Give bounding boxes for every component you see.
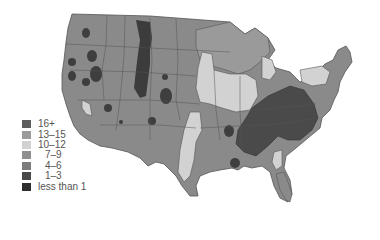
legend-item: 7–9 [22, 150, 86, 160]
legend-label: less than 1 [38, 182, 86, 192]
legend-item: less than 1 [22, 181, 86, 191]
legend-item: 1–3 [22, 171, 86, 181]
legend-swatch [22, 120, 31, 128]
legend-item: 16+ [22, 119, 86, 129]
legend-swatch [22, 141, 31, 149]
legend-swatch [22, 172, 31, 180]
legend-swatch [22, 131, 31, 139]
legend: 16+ 13–15 10–12 7–9 4–6 1–3 less than 1 [22, 119, 86, 192]
legend-label: 7–9 [38, 150, 62, 160]
legend-label: 1–3 [38, 171, 62, 181]
legend-swatch [22, 162, 31, 170]
legend-label: 16+ [38, 119, 55, 129]
legend-swatch [22, 151, 31, 159]
region-10-12-northeast [300, 66, 330, 86]
legend-swatch [22, 183, 31, 191]
